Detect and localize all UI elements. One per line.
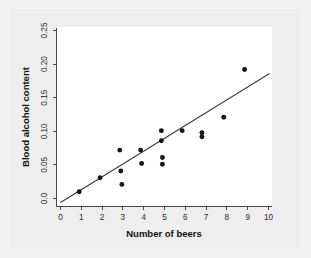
plot-area-background xyxy=(56,27,272,207)
x-tick-label: 3 xyxy=(121,213,126,222)
y-tick-labels: 0.0 0.05 0.10 0.15 0.20 0.25 xyxy=(40,22,49,204)
data-point xyxy=(221,115,226,120)
y-tick-label: 0.15 xyxy=(40,89,49,105)
y-tick-label: 0.10 xyxy=(40,123,49,139)
data-point xyxy=(199,134,204,139)
data-point xyxy=(118,168,123,173)
x-tick-label: 10 xyxy=(264,213,274,222)
data-point xyxy=(159,128,164,133)
scatterplot: 0 1 2 3 4 5 6 7 8 9 10 0.0 0.05 0.10 0.1… xyxy=(0,0,311,258)
data-point xyxy=(117,148,122,153)
figure-root: 0 1 2 3 4 5 6 7 8 9 10 0.0 0.05 0.10 0.1… xyxy=(0,0,311,258)
data-point xyxy=(242,67,247,72)
y-tick-label: 0.0 xyxy=(40,192,49,204)
y-tick-marks xyxy=(53,31,56,199)
x-tick-label: 6 xyxy=(183,213,188,222)
x-tick-label: 0 xyxy=(58,213,63,222)
data-point xyxy=(77,189,82,194)
data-point xyxy=(159,138,164,143)
data-point xyxy=(139,161,144,166)
x-tick-labels: 0 1 2 3 4 5 6 7 8 9 10 xyxy=(58,213,273,222)
y-tick-label: 0.25 xyxy=(40,22,49,38)
y-axis-title: Blood alcohol content xyxy=(20,66,31,167)
x-axis-title: Number of beers xyxy=(126,228,202,239)
x-tick-label: 7 xyxy=(204,213,209,222)
data-point xyxy=(160,155,165,160)
x-tick-label: 8 xyxy=(225,213,230,222)
x-tick-label: 4 xyxy=(141,213,146,222)
data-point xyxy=(160,162,165,167)
y-tick-label: 0.05 xyxy=(40,156,49,172)
data-point xyxy=(180,128,185,133)
x-tick-marks xyxy=(61,207,269,210)
x-tick-label: 5 xyxy=(162,213,167,222)
y-tick-label: 0.20 xyxy=(40,56,49,72)
x-tick-label: 2 xyxy=(100,213,105,222)
x-tick-label: 9 xyxy=(245,213,250,222)
x-tick-label: 1 xyxy=(79,213,84,222)
data-point xyxy=(138,148,143,153)
data-point xyxy=(98,175,103,180)
data-point xyxy=(119,182,124,187)
